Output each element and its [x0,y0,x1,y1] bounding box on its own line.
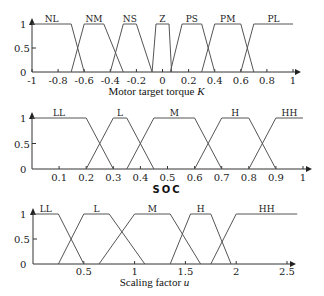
set-label-h: H [197,204,205,214]
y-tick-label: 1 [20,209,26,220]
set-label-hh: HH [282,108,298,118]
x-tick-label: 0.4 [132,172,148,183]
soc-membership-chart: 00.510.10.20.30.40.50.60.70.80.91LLLMHHH… [14,108,312,195]
membership-nl [32,24,84,72]
membership-h [195,118,276,169]
torque-membership-chart: 00.51-1-0.8-0.6-0.4-0.200.20.40.60.81NLN… [14,14,301,97]
y-tick-label: 0.5 [14,139,30,150]
set-label-ll: LL [53,108,65,118]
membership-h [170,214,231,264]
y-tick-label: 0.5 [14,234,30,245]
x-tick-label: 0.5 [76,266,92,277]
x-tick-label: 0.5 [160,172,176,183]
set-label-pl: PL [267,14,279,24]
x-axis-title: SOC [152,184,181,195]
membership-hh [211,214,297,264]
membership-ll [33,214,84,264]
set-label-z: Z [159,14,165,24]
set-label-pm: PM [220,14,235,24]
x-tick-label: 0.8 [259,75,275,86]
membership-z [152,24,172,72]
x-tick-label: 0.6 [187,172,203,183]
set-label-m: M [148,204,157,214]
y-tick-label: 1 [20,113,26,124]
membership-m [127,118,222,169]
set-label-ps: PS [186,14,198,24]
set-label-hh: HH [259,204,275,214]
set-label-ll: LL [40,204,52,214]
x-axis-title: Scaling factor u [120,276,190,288]
set-label-ns: NS [123,14,137,24]
membership-ns [110,24,152,72]
y-tick-label: 0 [20,164,26,175]
scaling-factor-membership-chart: 00.510.511.522.5LLLMHHHScaling factor u [14,204,297,288]
x-tick-label: 0.1 [51,172,67,183]
x-tick-label: 0.7 [214,172,230,183]
x-tick-label: 1 [300,172,306,183]
membership-l [58,214,144,264]
set-label-l: L [117,108,123,118]
membership-ll [32,118,113,169]
membership-pm [202,24,254,72]
x-tick-label: -0.8 [48,75,67,86]
x-tick-label: 0.3 [105,172,121,183]
x-tick-label: 2.5 [279,266,295,277]
x-tick-label: -1 [27,75,37,86]
membership-function-charts: 00.51-1-0.8-0.6-0.4-0.200.20.40.60.81NLN… [0,0,324,296]
set-label-h: H [231,108,239,118]
x-tick-label: 0.9 [268,172,284,183]
x-tick-label: 1 [290,75,296,86]
y-tick-label: 0 [20,259,26,270]
y-tick-label: 1 [20,19,26,30]
x-axis-title: Motor target torque K [108,85,205,97]
x-tick-label: 2 [233,266,239,277]
x-tick-label: 0.4 [207,75,223,86]
membership-l [86,118,154,169]
set-label-nl: NL [45,14,59,24]
x-tick-label: 0.8 [241,172,257,183]
set-label-m: M [170,108,179,118]
x-tick-label: -0.6 [75,75,94,86]
membership-hh [249,118,303,169]
set-label-l: L [94,204,100,214]
membership-pl [241,24,293,72]
x-axis-arrow-icon [306,166,312,172]
x-tick-label: 0.6 [233,75,249,86]
membership-nm [71,24,123,72]
y-tick-label: 0.5 [14,43,30,54]
set-label-nm: NM [85,14,102,24]
y-tick-label: 0 [20,67,26,78]
x-tick-label: 0.2 [78,172,94,183]
